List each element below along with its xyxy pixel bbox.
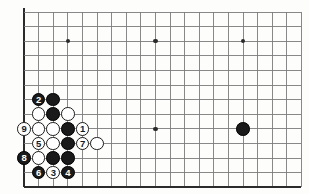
go-board-diagram: 291578634 [0, 0, 309, 194]
stone-move-number: 3 [51, 168, 56, 178]
stone-white-f9[interactable] [90, 137, 104, 151]
stone-black-c10[interactable] [46, 151, 60, 165]
stone-white-move-3[interactable]: 3 [46, 166, 60, 180]
stone-black-move-6[interactable]: 6 [32, 166, 46, 180]
star-point-upper-center [153, 39, 157, 43]
stone-black-d10[interactable] [61, 151, 75, 165]
stone-white-c8[interactable] [46, 122, 60, 136]
stone-move-number: 4 [65, 168, 70, 178]
stone-white-move-1[interactable]: 1 [76, 122, 90, 136]
stone-move-number: 9 [21, 124, 26, 134]
stone-white-b7[interactable] [32, 107, 46, 121]
star-point-upper-left [66, 39, 70, 43]
stone-white-d7[interactable] [61, 107, 75, 121]
stone-move-number: 2 [36, 95, 41, 105]
stone-white-move-5[interactable]: 5 [32, 137, 46, 151]
stone-black-c6[interactable] [46, 93, 60, 107]
stone-black-move-8[interactable]: 8 [17, 151, 31, 165]
stone-move-number: 7 [80, 138, 85, 148]
stone-white-b10[interactable] [32, 151, 46, 165]
stone-black-d9[interactable] [61, 137, 75, 151]
stone-layer: 291578634 [0, 0, 309, 194]
stone-move-number: 5 [36, 138, 41, 148]
stone-black-d8[interactable] [61, 122, 75, 136]
stone-white-c9[interactable] [46, 137, 60, 151]
star-point-upper-right [241, 39, 245, 43]
stone-white-move-9[interactable]: 9 [17, 122, 31, 136]
stone-black-c7[interactable] [46, 107, 60, 121]
stone-black-right-side[interactable] [236, 122, 250, 136]
stone-white-b8[interactable] [32, 122, 46, 136]
stone-move-number: 1 [80, 124, 85, 134]
stone-move-number: 8 [21, 153, 26, 163]
stone-move-number: 6 [36, 168, 41, 178]
stone-white-move-7[interactable]: 7 [76, 137, 90, 151]
star-point-lower-center [153, 127, 157, 131]
stone-black-move-4[interactable]: 4 [61, 166, 75, 180]
stone-black-move-2[interactable]: 2 [32, 93, 46, 107]
